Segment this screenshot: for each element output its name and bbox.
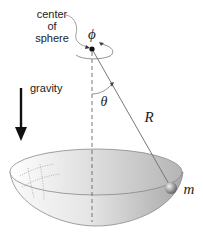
bowl-rim xyxy=(10,149,182,195)
callout-arrowhead-icon xyxy=(85,45,90,49)
gravity-label: gravity xyxy=(30,82,63,94)
center-label-line2: of xyxy=(47,20,57,32)
center-label-line1: center xyxy=(37,8,68,20)
pendulum-ball xyxy=(165,182,177,194)
radius-label: R xyxy=(143,109,153,125)
gravity-arrow-icon xyxy=(15,88,27,141)
center-callout-line xyxy=(66,15,88,47)
spherical-pendulum-diagram: center of sphere ϕ θ R m gravity xyxy=(0,0,203,238)
phi-label: ϕ xyxy=(88,26,96,42)
mass-label: m xyxy=(184,181,195,197)
center-label-line3: sphere xyxy=(35,32,69,44)
theta-arc xyxy=(92,82,114,94)
theta-label: θ xyxy=(101,94,108,109)
center-pivot-dot xyxy=(89,46,94,51)
